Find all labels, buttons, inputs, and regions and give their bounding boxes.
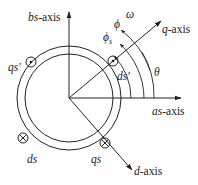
ds-prime-dot-symbol <box>108 56 118 66</box>
qs-prime-label: qs′ <box>8 61 21 74</box>
qs-prime-dot-symbol <box>26 57 36 67</box>
ds-prime-label: ds′ <box>117 70 130 82</box>
dq-axis-diagram: bs-axis as-axis q-axis d-axis qs′ ds′ ds… <box>0 0 198 185</box>
qs-label: qs <box>91 153 102 166</box>
phi-s-label: ϕs <box>103 31 112 46</box>
phi-label: ϕ <box>114 18 120 31</box>
q-axis-label: q-axis <box>162 23 191 36</box>
ds-label: ds <box>27 153 38 165</box>
d-axis-label: d-axis <box>134 165 163 177</box>
as-axis-label: as-axis <box>152 105 185 117</box>
bs-axis-label: bs-axis <box>28 11 61 23</box>
theta-label: θ <box>154 66 160 78</box>
ds-cross-symbol <box>18 133 28 143</box>
omega-label: ω <box>126 8 134 20</box>
q-axis-line <box>69 21 161 98</box>
